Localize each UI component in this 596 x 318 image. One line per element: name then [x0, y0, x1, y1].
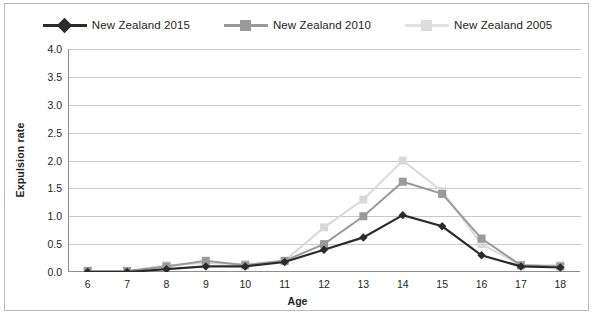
square-marker-icon: [399, 178, 407, 186]
y-axis-tick-label: 3.5: [32, 71, 62, 83]
y-axis-tick-label: 3.0: [32, 99, 62, 111]
chart-frame: New Zealand 2015 New Zealand 2010 New Ze…: [4, 3, 589, 311]
x-axis-tick-label: 11: [279, 278, 290, 290]
legend-item-new-zealand-2015[interactable]: New Zealand 2015: [43, 19, 190, 31]
x-axis-tick-label: 18: [554, 278, 566, 290]
y-axis-tick-label: 1.0: [32, 210, 62, 222]
square-marker-icon: [438, 190, 446, 198]
x-axis-tick-label: 8: [164, 278, 170, 290]
x-axis-title-text: Age: [288, 295, 308, 307]
square-marker-icon: [359, 212, 367, 220]
square-marker-icon: [320, 223, 328, 231]
square-marker-icon: [421, 20, 432, 31]
chart-svg: [68, 49, 580, 272]
legend-item-new-zealand-2010[interactable]: New Zealand 2010: [224, 19, 371, 31]
y-axis-tick-label: 2.5: [32, 127, 62, 139]
x-axis-tick-label: 12: [318, 278, 330, 290]
y-axis-tick-label: 0.5: [32, 238, 62, 250]
y-axis-tick-label: 2.0: [32, 155, 62, 167]
y-axis-title: Expulsion rate: [13, 111, 27, 211]
series-line: [88, 161, 561, 271]
y-axis-title-text: Expulsion rate: [14, 110, 26, 210]
x-axis-tick-label: 17: [515, 278, 527, 290]
y-axis-tick-label: 4.0: [32, 43, 62, 55]
series-canvas: [68, 49, 580, 272]
x-axis-tick-label: 13: [358, 278, 370, 290]
y-axis-tick-label: 0.0: [32, 266, 62, 278]
x-axis-title: Age: [5, 295, 590, 307]
x-axis-tick-label: 14: [397, 278, 409, 290]
x-axis-tick-label: 15: [436, 278, 448, 290]
legend-label-2005: New Zealand 2005: [454, 19, 552, 31]
y-axis-tick-labels: 0.00.51.01.52.02.53.03.54.0: [30, 4, 62, 318]
x-axis-tick-label: 7: [124, 278, 130, 290]
diamond-marker-icon: [399, 211, 407, 219]
square-marker-icon: [240, 20, 251, 31]
x-axis-tick-label: 6: [85, 278, 91, 290]
square-marker-icon: [359, 196, 367, 204]
x-axis-tick-label: 9: [203, 278, 209, 290]
x-axis-tick-label: 10: [239, 278, 251, 290]
chart-legend: New Zealand 2015 New Zealand 2010 New Ze…: [5, 14, 590, 36]
x-axis-tick-label: 16: [476, 278, 488, 290]
legend-swatch-2010: [224, 24, 268, 27]
legend-label-2010: New Zealand 2010: [273, 19, 371, 31]
legend-label-2015: New Zealand 2015: [92, 19, 190, 31]
legend-item-new-zealand-2005[interactable]: New Zealand 2005: [405, 19, 552, 31]
y-axis-tick-label: 1.5: [32, 182, 62, 194]
square-marker-icon: [399, 157, 407, 165]
legend-swatch-2005: [405, 24, 449, 27]
square-marker-icon: [478, 235, 486, 243]
